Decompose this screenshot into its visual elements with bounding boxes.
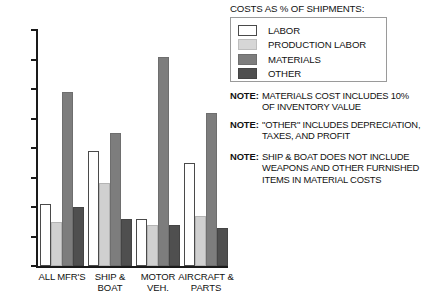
y-axis-tick — [31, 88, 37, 90]
bar — [206, 113, 217, 266]
bar — [217, 228, 228, 266]
bar — [62, 92, 73, 266]
bar — [88, 151, 99, 266]
legend-and-notes-panel: COSTS AS % OF SHIPMENTS: LABORPRODUCTION… — [228, 0, 438, 304]
y-axis-tick — [31, 147, 37, 149]
y-axis-tick — [31, 59, 37, 61]
note-row: NOTE:MATERIALS COST INCLUDES 10% OF INVE… — [230, 90, 436, 113]
y-axis-tick — [31, 206, 37, 208]
legend-box: LABORPRODUCTION LABORMATERIALSOTHER — [230, 17, 387, 82]
note-row: NOTE:"OTHER" INCLUDES DEPRECIATION, TAXE… — [230, 119, 436, 142]
bar — [158, 57, 169, 266]
legend-swatch-prodlabor — [238, 39, 257, 50]
y-axis-tick — [31, 29, 37, 31]
note-tag: NOTE: — [230, 119, 262, 130]
legend-item: OTHER — [238, 67, 301, 81]
legend-item-label: OTHER — [268, 68, 301, 79]
x-axis-line — [36, 266, 228, 268]
legend-item-label: MATERIALS — [268, 54, 321, 65]
plot-area — [38, 30, 228, 266]
bar — [195, 216, 206, 266]
legend-item-label: LABOR — [268, 25, 300, 36]
bar — [169, 225, 180, 266]
legend-item: MATERIALS — [238, 52, 321, 66]
note-text: MATERIALS COST INCLUDES 10% OF INVENTORY… — [262, 90, 409, 113]
legend-item-label: PRODUCTION LABOR — [268, 39, 366, 50]
note-tag: NOTE: — [230, 90, 262, 101]
legend-item: PRODUCTION LABOR — [238, 38, 366, 52]
bar — [51, 222, 62, 266]
y-axis-tick — [31, 265, 37, 267]
note-row: NOTE:SHIP & BOAT DOES NOT INCLUDE WEAPON… — [230, 151, 436, 185]
note-tag: NOTE: — [230, 151, 262, 162]
legend-swatch-materials — [238, 54, 257, 65]
legend-title: COSTS AS % OF SHIPMENTS: — [230, 3, 364, 14]
bar — [184, 163, 195, 266]
bar-chart: 01020304050607080 ALL MFR'SSHIP & BOATMO… — [0, 0, 232, 304]
note-text: "OTHER" INCLUDES DEPRECIATION, TAXES, AN… — [262, 119, 420, 142]
bar — [121, 219, 132, 266]
chart-page: 01020304050607080 ALL MFR'SSHIP & BOATMO… — [0, 0, 438, 304]
bar — [99, 183, 110, 266]
y-axis-tick — [31, 118, 37, 120]
legend-item: LABOR — [238, 23, 300, 37]
legend-swatch-labor — [238, 25, 257, 36]
bar — [110, 133, 121, 266]
bar — [147, 225, 158, 266]
y-axis-tick — [31, 177, 37, 179]
bar — [40, 204, 51, 266]
bar — [73, 207, 84, 266]
legend-swatch-other — [238, 68, 257, 79]
note-text: SHIP & BOAT DOES NOT INCLUDE WEAPONS AND… — [262, 151, 419, 185]
bar — [136, 219, 147, 266]
y-axis-tick — [31, 236, 37, 238]
